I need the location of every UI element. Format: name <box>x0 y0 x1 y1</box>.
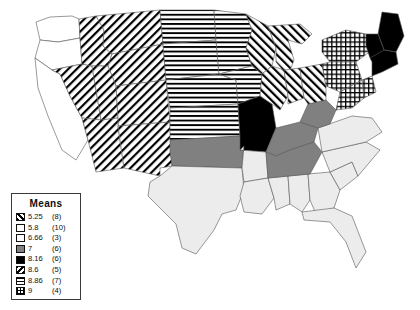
legend-swatch-white-blank-icon <box>16 224 25 232</box>
legend-value: 8.6 <box>28 265 52 276</box>
state-south-dakota <box>163 40 219 80</box>
legend-swatch-horizontal-lines-icon <box>16 277 25 285</box>
legend-title: Means <box>12 198 80 209</box>
state-colorado <box>116 80 170 126</box>
map-states-layer <box>35 10 404 268</box>
legend-value: 7 <box>28 244 52 255</box>
legend-value: 8.86 <box>28 276 52 287</box>
state-new-mexico <box>118 122 172 176</box>
legend-swatch-crosshatch-grid-icon <box>16 287 25 295</box>
state-north-dakota <box>160 10 216 44</box>
us-choropleth-map-figure: Means 5.25 (8) 5.8 (10) 6.66 (3) 7 (6) 8… <box>0 0 420 310</box>
state-louisiana <box>240 178 274 214</box>
legend-swatch-solid-black-icon <box>16 256 25 264</box>
legend-item: 6.66 (3) <box>12 233 80 244</box>
legend-item: 8.6 (5) <box>12 265 80 276</box>
legend-item: 8.86 (7) <box>12 276 80 287</box>
state-alabama <box>288 174 310 212</box>
legend-swatch-diagonal-hatch-forward-icon <box>16 213 25 221</box>
state-nebraska <box>166 74 238 108</box>
state-minnesota <box>214 10 252 74</box>
legend-count: (8) <box>52 212 70 223</box>
legend-value: 8.16 <box>28 254 52 265</box>
legend-item: 8.16 (6) <box>12 254 80 265</box>
legend-item: 5.8 (10) <box>12 223 80 234</box>
legend-count: (10) <box>52 223 70 234</box>
legend-swatch-diagonal-hatch-back-icon <box>16 266 25 274</box>
legend-count: (3) <box>52 233 70 244</box>
state-kansas <box>170 104 240 140</box>
legend-value: 6.66 <box>28 233 52 244</box>
legend-box: Means 5.25 (8) 5.8 (10) 6.66 (3) 7 (6) 8… <box>11 193 81 300</box>
legend-item: 5.25 (8) <box>12 212 80 223</box>
legend-value: 9 <box>28 286 52 297</box>
legend-swatch-white-blank2-icon <box>16 234 25 242</box>
state-new-jersey <box>362 76 376 98</box>
state-new-york <box>322 30 372 62</box>
legend-value: 5.8 <box>28 223 52 234</box>
legend-swatch-solid-gray-icon <box>16 245 25 253</box>
legend-count: (7) <box>52 276 70 287</box>
state-washington <box>36 16 80 42</box>
state-texas <box>148 166 244 254</box>
state-ohio <box>300 64 326 104</box>
state-oklahoma <box>170 136 244 168</box>
legend-count: (5) <box>52 265 70 276</box>
legend-count: (6) <box>52 254 70 265</box>
state-arizona <box>82 118 124 172</box>
state-florida <box>302 208 366 268</box>
legend-value: 5.25 <box>28 212 52 223</box>
legend-count: (6) <box>52 244 70 255</box>
legend-item: 7 (6) <box>12 244 80 255</box>
legend-item: 9 (4) <box>12 286 80 297</box>
legend-count: (4) <box>52 286 70 297</box>
